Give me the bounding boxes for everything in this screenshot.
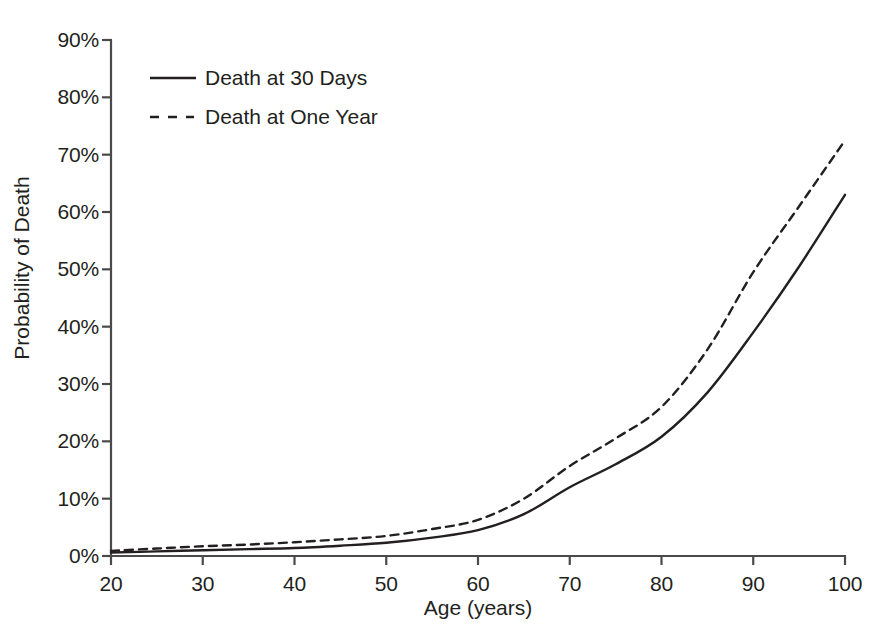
legend-entry-label-0: Death at 30 Days	[205, 66, 367, 90]
x-tick-label: 40	[283, 572, 306, 596]
x-tick-label: 80	[650, 572, 673, 596]
x-tick-label: 20	[100, 572, 123, 596]
y-tick-label: 90%	[10, 28, 99, 52]
x-tick-label: 30	[191, 572, 214, 596]
legend-entry-label-1: Death at One Year	[205, 105, 378, 129]
x-tick-label: 60	[467, 572, 490, 596]
y-tick-label: 0%	[10, 544, 99, 568]
plot-area	[0, 0, 882, 636]
x-axis-label: Age (years)	[424, 596, 533, 620]
x-tick-label: 90	[742, 572, 765, 596]
x-tick-label: 100	[828, 572, 862, 596]
series-line-1	[111, 140, 845, 551]
y-tick-label: 10%	[10, 487, 99, 511]
legend-line-samples	[150, 78, 196, 117]
x-tick-label: 50	[375, 572, 398, 596]
chart-figure: 0%10%20%30%40%50%60%70%80%90% 2030405060…	[0, 0, 882, 636]
y-axis-label: Probability of Death	[10, 68, 34, 468]
series-line-0	[111, 195, 845, 553]
x-tick-label: 70	[558, 572, 581, 596]
data-series-group	[111, 140, 845, 552]
